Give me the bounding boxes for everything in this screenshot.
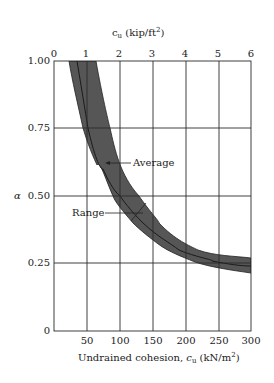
svg-text:0.75: 0.75 [28, 122, 50, 133]
x-axis-ticks: 50 100 150 200 250 300 [81, 335, 261, 346]
y-axis-ticks: 0 0.25 0.50 0.75 1.00 [28, 55, 50, 336]
svg-text:250: 250 [209, 335, 228, 346]
svg-text:150: 150 [143, 335, 162, 346]
svg-text:3: 3 [149, 48, 155, 59]
svg-text:4: 4 [182, 48, 188, 59]
svg-text:0.50: 0.50 [28, 190, 50, 201]
svg-text:Average: Average [132, 157, 175, 168]
top-axis-title: cu (kip/ft2) [112, 26, 164, 40]
svg-text:300: 300 [241, 335, 260, 346]
svg-text:5: 5 [215, 48, 221, 59]
y-axis-title: α [14, 190, 21, 201]
svg-text:6: 6 [248, 48, 254, 59]
svg-text:Range: Range [72, 207, 105, 218]
svg-text:0.25: 0.25 [28, 257, 50, 268]
top-axis-ticks: 0 1 2 3 4 5 6 [51, 48, 254, 59]
svg-text:0: 0 [44, 325, 50, 336]
x-axis-title: Undrained cohesion, cu (kN/m2) [78, 351, 240, 365]
alpha-chart: cu (kip/ft2) 0 1 2 3 4 5 6 0 0.25 0.50 0… [0, 0, 274, 383]
svg-text:1.00: 1.00 [28, 55, 50, 66]
svg-text:0: 0 [51, 48, 57, 59]
svg-text:1: 1 [83, 48, 89, 59]
svg-text:50: 50 [81, 335, 94, 346]
svg-text:2: 2 [116, 48, 122, 59]
svg-text:100: 100 [110, 335, 129, 346]
svg-text:200: 200 [176, 335, 195, 346]
